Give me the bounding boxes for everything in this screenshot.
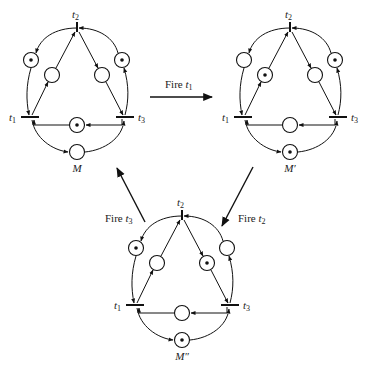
fire-t3-label: Fire t3 bbox=[105, 212, 133, 226]
label-t2: t2 bbox=[285, 8, 292, 22]
place-inner-left bbox=[150, 256, 165, 271]
arc-t3-outerright bbox=[124, 68, 128, 115]
arc-outerleft-t1 bbox=[132, 256, 136, 303]
arc-outerleft-t1 bbox=[240, 68, 244, 115]
place-outer-left bbox=[237, 53, 252, 68]
arc-outerleft-t1 bbox=[27, 68, 31, 115]
token bbox=[263, 73, 267, 77]
label-t1: t1 bbox=[9, 111, 16, 125]
fire-t1-arrow: Fire t1 bbox=[150, 78, 212, 97]
place-outer-right bbox=[220, 241, 235, 256]
arc-t1-innerleft bbox=[245, 82, 261, 115]
arc-innerright-t3 bbox=[319, 82, 336, 115]
arc-bottommid-t1 bbox=[247, 120, 282, 125]
arc-innerleft-t2 bbox=[161, 220, 180, 256]
arc-t2-innerright bbox=[184, 220, 203, 256]
arc-bottom-t3 bbox=[190, 309, 229, 340]
place-inner-right bbox=[95, 68, 110, 83]
arc-bottommid-t1 bbox=[139, 308, 174, 313]
token bbox=[205, 261, 209, 265]
petri-net-M: t2t1t3M bbox=[9, 8, 145, 174]
arc-t2-innerright bbox=[292, 32, 311, 68]
label-t1: t1 bbox=[114, 299, 121, 313]
arc-outerright-t2 bbox=[184, 216, 223, 241]
marking-label: M′ bbox=[283, 162, 296, 174]
place-bottom-middle bbox=[283, 118, 298, 133]
arc-t1-innerleft bbox=[137, 270, 153, 303]
label-t3: t3 bbox=[351, 111, 358, 125]
arc-outerright-t2 bbox=[79, 28, 118, 53]
arc-bottom-t3 bbox=[298, 121, 337, 152]
label-t2: t2 bbox=[72, 8, 79, 22]
arc-t1-innerleft bbox=[32, 82, 48, 115]
arc-innerright-t3 bbox=[211, 270, 228, 303]
label-t3: t3 bbox=[243, 299, 250, 313]
token bbox=[120, 58, 124, 62]
fire-t2-label: Fire t2 bbox=[238, 212, 266, 226]
fire-t3-arrow: Fire t3 bbox=[105, 168, 145, 226]
place-bottom bbox=[70, 145, 85, 160]
arc-t3-bottommid bbox=[299, 119, 335, 125]
token bbox=[134, 246, 138, 250]
marking-label: M″ bbox=[174, 350, 189, 362]
arc-innerright-t3 bbox=[106, 82, 123, 115]
arc-t3-outerright bbox=[229, 256, 233, 303]
label-t3: t3 bbox=[138, 111, 145, 125]
place-inner-left bbox=[45, 68, 60, 83]
arc-bottommid-t1 bbox=[34, 120, 69, 125]
arc-t3-outerright bbox=[337, 68, 341, 115]
arc-t2-innerright bbox=[79, 32, 98, 68]
label-t2: t2 bbox=[177, 196, 184, 210]
marking-label: M bbox=[71, 162, 82, 174]
petri-net-diagram: t2t1t3Mt2t1t3M′t2t1t3M″ Fire t1 Fire t2 … bbox=[0, 0, 365, 385]
token bbox=[180, 338, 184, 342]
token bbox=[288, 150, 292, 154]
place-inner-right bbox=[308, 68, 323, 83]
arc-t3-bottommid bbox=[86, 119, 122, 125]
arc-bottom-t3 bbox=[85, 121, 124, 152]
petri-net-M_double_prime: t2t1t3M″ bbox=[114, 196, 250, 362]
arc-innerleft-t2 bbox=[269, 32, 288, 68]
token bbox=[333, 58, 337, 62]
petri-net-M_prime: t2t1t3M′ bbox=[222, 8, 358, 174]
arc-outerright-t2 bbox=[292, 28, 331, 53]
token bbox=[75, 123, 79, 127]
label-t1: t1 bbox=[222, 111, 229, 125]
token bbox=[29, 58, 33, 62]
fire-t2-arrow: Fire t2 bbox=[222, 167, 266, 226]
arc-innerleft-t2 bbox=[56, 32, 75, 68]
place-bottom-middle bbox=[175, 306, 190, 321]
fire-t1-label: Fire t1 bbox=[165, 78, 193, 92]
arc-t3-bottommid bbox=[191, 307, 227, 313]
